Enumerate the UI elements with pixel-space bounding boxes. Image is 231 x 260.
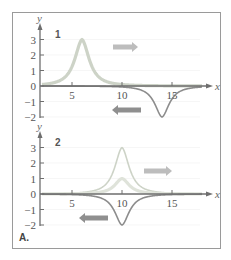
chart-panel-1: xy3210−1−2510151 [24,12,220,123]
chart-panel-2: xy3210−1−2510152 [24,120,220,231]
svg-text:1: 1 [31,173,37,185]
figure-canvas: xy3210−1−2510151 xy3210−1−2510152 A. [0,0,231,260]
svg-text:−2: −2 [24,219,36,231]
svg-text:10: 10 [117,89,129,101]
figure-label: A. [19,232,29,243]
svg-text:y: y [36,120,42,132]
svg-text:5: 5 [69,197,75,209]
svg-text:10: 10 [117,197,129,209]
svg-text:−2: −2 [24,111,36,123]
svg-text:2: 2 [55,137,61,148]
svg-text:−1: −1 [24,96,36,108]
svg-text:x: x [214,188,220,200]
svg-text:15: 15 [167,89,179,101]
svg-text:2: 2 [31,49,37,61]
svg-text:1: 1 [55,29,61,40]
svg-text:3: 3 [31,142,37,154]
curve-right-moving-pulse [42,148,202,194]
svg-text:15: 15 [167,197,179,209]
svg-text:y: y [36,12,42,24]
svg-text:−1: −1 [24,204,36,216]
svg-text:1: 1 [31,65,37,77]
svg-text:0: 0 [31,80,37,92]
svg-text:5: 5 [69,89,75,101]
svg-text:2: 2 [31,157,37,169]
svg-text:3: 3 [31,34,37,46]
svg-text:0: 0 [31,188,37,200]
svg-text:x: x [214,80,220,92]
